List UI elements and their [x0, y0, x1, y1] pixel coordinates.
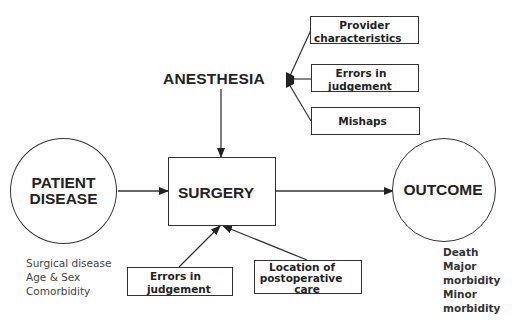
factor-box-anesthesia-errors-in-judgement: Errors in judgement [311, 64, 419, 92]
outcome-result: Death [443, 245, 500, 259]
factor-box-location-of-postoperative-care: Location of postoperative care [254, 260, 362, 294]
arrow-errors-to-surgery [179, 226, 220, 267]
outcome-result: Minor [443, 287, 500, 301]
patient-factor: Comorbidity [26, 284, 111, 298]
factor-line-3: care [254, 284, 361, 294]
factor-line-1: Errors in [311, 67, 418, 80]
factor-box-provider-characteristics: Provider characteristics [310, 16, 419, 44]
outcome-result: morbidity [443, 273, 500, 287]
factor-line-1: Provider [311, 19, 418, 32]
patient-label-line-2: DISEASE [29, 191, 97, 207]
factor-box-mishaps: Mishaps [311, 107, 420, 135]
line-mishaps-to-anesthesia [289, 84, 311, 121]
patient-factor: Surgical disease [26, 256, 111, 270]
line-provider-to-anesthesia [289, 30, 311, 78]
patient-factor: Age & Sex [26, 270, 111, 284]
patient-disease-node: PATIENT DISEASE [10, 138, 117, 244]
surgery-node: SURGERY [168, 157, 276, 226]
factor-line-1: Mishaps [311, 108, 419, 134]
arrow-location-to-surgery [223, 226, 307, 260]
factor-line-2: judgement [128, 283, 232, 296]
outcome-node: OUTCOME [392, 138, 496, 242]
anesthesia-label: ANESTHESIA [163, 70, 265, 88]
surgery-label: SURGERY [178, 184, 254, 202]
factor-line-2: judgement [311, 80, 418, 92]
outcome-label: OUTCOME [403, 181, 482, 199]
outcome-result: Major [443, 259, 500, 273]
patient-factors-list: Surgical disease Age & Sex Comorbidity [26, 256, 111, 298]
factor-box-surgery-errors-in-judgement: Errors in judgement [127, 267, 233, 296]
outcome-result: morbidity [443, 301, 500, 315]
outcome-results-list: Death Major morbidity Minor morbidity [443, 245, 500, 315]
factor-line-1: Errors in [128, 270, 232, 283]
factor-line-2: characteristics [311, 32, 418, 44]
bracket-arrowhead [286, 72, 294, 88]
patient-label-line-1: PATIENT [29, 175, 97, 191]
